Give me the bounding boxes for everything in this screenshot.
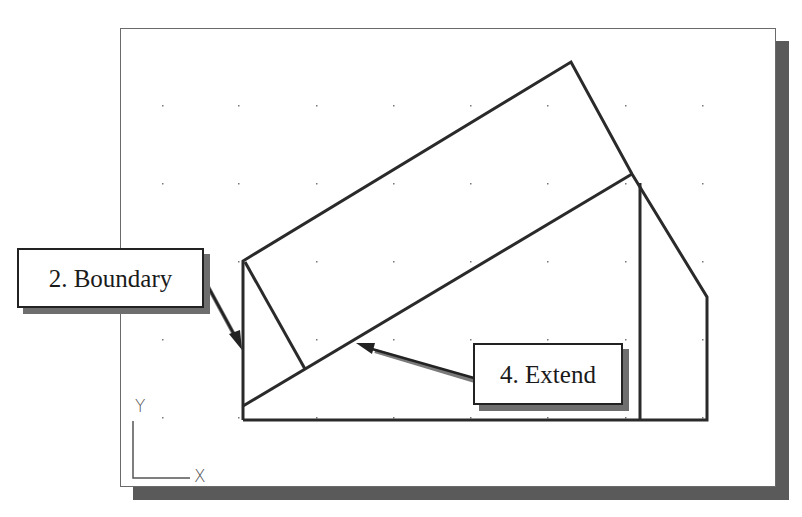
grid-dot xyxy=(702,417,704,419)
grid-dot xyxy=(547,417,549,419)
grid-dot xyxy=(316,261,318,263)
grid-dot xyxy=(625,105,627,107)
grid-dot xyxy=(393,417,395,419)
grid-dot xyxy=(702,105,704,107)
boundary-arrow xyxy=(204,279,242,350)
grid-dot xyxy=(470,183,472,185)
grid-dot xyxy=(393,339,395,341)
grid-dot xyxy=(547,183,549,185)
grid-dot xyxy=(547,105,549,107)
grid-dot xyxy=(393,261,395,263)
grid-dot xyxy=(625,183,627,185)
grid-dot xyxy=(470,417,472,419)
grid-dot xyxy=(625,417,627,419)
extend-arrow xyxy=(356,343,475,381)
grid-dot xyxy=(238,417,240,419)
grid-dot xyxy=(316,183,318,185)
grid-dot xyxy=(162,105,164,107)
grid-dot xyxy=(162,339,164,341)
grid-dot xyxy=(316,417,318,419)
grid-dot xyxy=(162,417,164,419)
ucs-x-label: X xyxy=(194,466,206,486)
grid-dot xyxy=(470,339,472,341)
ucs-icon xyxy=(133,421,190,478)
grid-dot xyxy=(393,183,395,185)
boundary-callout: 2. Boundary xyxy=(17,248,204,308)
grid-dot xyxy=(702,183,704,185)
rectangle-left-edge[interactable] xyxy=(245,262,305,369)
extend-callout-label: 4. Extend xyxy=(500,362,596,387)
grid-dot xyxy=(625,339,627,341)
boundary-callout-label: 2. Boundary xyxy=(49,266,173,291)
grid-dot xyxy=(238,261,240,263)
grid-dot xyxy=(625,261,627,263)
grid-dot xyxy=(238,105,240,107)
extend-callout: 4. Extend xyxy=(473,343,623,405)
grid-dot xyxy=(470,261,472,263)
grid-dot xyxy=(316,339,318,341)
grid-dot xyxy=(238,183,240,185)
grid-dot xyxy=(702,261,704,263)
grid-dot xyxy=(547,339,549,341)
grid-dot xyxy=(393,105,395,107)
grid-dot xyxy=(702,339,704,341)
grid-dot xyxy=(162,183,164,185)
grid-dot xyxy=(470,105,472,107)
grid-dot xyxy=(316,105,318,107)
grid-dot xyxy=(547,261,549,263)
ucs-y-label: Y xyxy=(135,396,145,416)
